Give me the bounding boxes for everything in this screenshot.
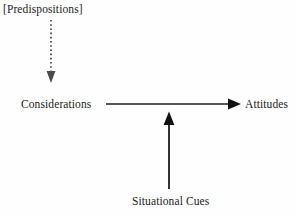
diagram-canvas: [Predispositions] Considerations Attitud…	[0, 0, 295, 216]
node-label-situational-cues: Situational Cues	[132, 195, 209, 208]
edge-situational-cues-to-considerations-attitudes	[164, 112, 175, 190]
arrowhead-down-icon	[47, 71, 56, 83]
edge-considerations-to-attitudes	[106, 99, 241, 110]
node-label-considerations: Considerations	[21, 98, 91, 111]
node-label-attitudes: Attitudes	[245, 98, 288, 111]
arrowhead-right-icon	[228, 99, 241, 110]
arrowhead-up-icon	[164, 112, 175, 126]
edge-predispositions-to-considerations	[47, 20, 56, 83]
node-label-predispositions: [Predispositions]	[3, 3, 83, 16]
